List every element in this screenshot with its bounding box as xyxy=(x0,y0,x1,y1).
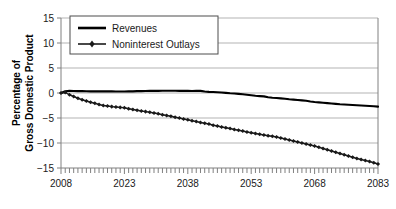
y-axis-title-line-1: Percentage of xyxy=(11,59,22,126)
data-point-marker xyxy=(253,131,257,135)
data-point-marker xyxy=(249,131,253,135)
data-point-marker xyxy=(346,154,350,158)
y-axis-tick-labels: 151050−5−10−15 xyxy=(37,13,54,174)
data-point-marker xyxy=(198,120,202,124)
data-point-marker xyxy=(135,108,139,112)
data-point-marker xyxy=(88,100,92,104)
data-point-marker xyxy=(93,101,97,105)
legend-label-noninterest-outlays: Noninterest Outlays xyxy=(112,39,200,50)
y-axis-title: Percentage of Gross Domestic Product xyxy=(11,34,35,152)
data-point-marker xyxy=(258,132,262,136)
data-point-marker xyxy=(114,105,118,109)
data-point-marker xyxy=(367,159,371,163)
chart-container: 151050−5−10−15 200820232038205320682083 … xyxy=(0,0,396,209)
data-point-marker xyxy=(127,107,131,111)
data-point-marker xyxy=(245,130,249,134)
x-axis-tick-labels: 200820232038205320682083 xyxy=(50,178,390,189)
data-point-marker xyxy=(287,138,291,142)
data-point-marker xyxy=(300,141,304,145)
x-axis-minor-ticks xyxy=(61,168,378,174)
data-point-marker xyxy=(355,156,359,160)
data-point-marker xyxy=(334,150,338,154)
y-axis-tick-label: −5 xyxy=(43,113,55,124)
data-point-marker xyxy=(72,94,76,98)
data-point-marker xyxy=(148,110,152,114)
data-point-marker xyxy=(325,148,329,152)
data-point-marker xyxy=(160,113,164,117)
legend-label-revenues: Revenues xyxy=(112,23,157,34)
data-point-marker xyxy=(105,104,109,108)
data-point-marker xyxy=(291,139,295,143)
data-point-marker xyxy=(80,98,84,102)
x-axis-tick-label: 2038 xyxy=(177,178,200,189)
data-point-marker xyxy=(363,158,367,162)
data-point-marker xyxy=(122,106,126,110)
data-point-marker xyxy=(139,109,143,113)
chart-legend: Revenues Noninterest Outlays xyxy=(70,16,218,54)
data-point-marker xyxy=(215,124,219,128)
data-point-marker xyxy=(156,112,160,116)
x-axis-tick-label: 2083 xyxy=(367,178,390,189)
data-point-marker xyxy=(203,121,207,125)
data-point-marker xyxy=(228,126,232,130)
y-axis-tick-label: 15 xyxy=(43,13,55,24)
data-point-marker xyxy=(359,157,363,161)
data-point-marker xyxy=(207,122,211,126)
data-point-marker xyxy=(317,145,321,149)
data-point-marker xyxy=(194,119,198,123)
data-point-marker xyxy=(313,144,317,148)
data-point-marker xyxy=(236,128,240,132)
data-point-marker xyxy=(241,129,245,133)
x-axis-tick-label: 2008 xyxy=(50,178,73,189)
data-point-marker xyxy=(266,134,270,138)
data-point-marker xyxy=(274,135,278,139)
data-point-marker xyxy=(143,110,147,114)
y-axis-tick-label: 5 xyxy=(48,63,54,74)
y-axis-title-line-2: Gross Domestic Product xyxy=(24,34,35,152)
data-point-marker xyxy=(173,115,177,119)
data-point-marker xyxy=(224,126,228,130)
data-point-marker xyxy=(131,107,135,111)
x-axis-tick-label: 2068 xyxy=(303,178,326,189)
y-axis-tick-label: 0 xyxy=(48,88,54,99)
y-axis-tick-label: −10 xyxy=(37,138,54,149)
data-point-marker xyxy=(84,99,88,103)
y-axis-tick-label: 10 xyxy=(43,38,55,49)
data-point-marker xyxy=(101,103,105,107)
data-point-marker xyxy=(321,146,325,150)
data-point-marker xyxy=(211,123,215,127)
x-axis-tick-label: 2053 xyxy=(240,178,263,189)
data-point-marker xyxy=(232,127,236,131)
data-point-marker xyxy=(220,125,224,129)
data-point-marker xyxy=(76,96,80,100)
data-point-marker xyxy=(372,161,376,165)
data-point-marker xyxy=(329,149,333,153)
data-point-marker xyxy=(270,134,274,138)
data-point-marker xyxy=(97,102,101,106)
data-point-marker xyxy=(342,153,346,157)
data-point-marker xyxy=(110,105,114,109)
data-point-marker xyxy=(351,155,355,159)
series-markers-noninterest-outlays xyxy=(59,90,380,166)
data-point-marker xyxy=(262,133,266,137)
data-point-marker xyxy=(279,136,283,140)
data-series-group xyxy=(59,90,380,166)
data-point-marker xyxy=(308,143,312,147)
data-point-marker xyxy=(165,113,169,117)
data-point-marker xyxy=(283,137,287,141)
x-axis-tick-label: 2023 xyxy=(113,178,136,189)
data-point-marker xyxy=(338,151,342,155)
data-point-marker xyxy=(177,116,181,120)
data-point-marker xyxy=(118,105,122,109)
line-chart: 151050−5−10−15 200820232038205320682083 … xyxy=(0,0,396,209)
data-point-marker xyxy=(190,119,194,123)
y-axis-tick-label: −15 xyxy=(37,163,54,174)
data-point-marker xyxy=(376,162,380,166)
data-point-marker xyxy=(152,111,156,115)
